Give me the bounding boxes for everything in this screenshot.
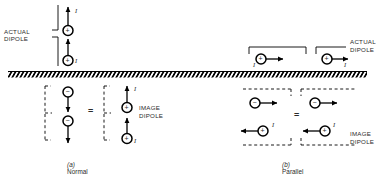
charge-sign: −	[252, 99, 256, 106]
image-dipole-box-b-right	[301, 89, 356, 145]
charge-sign: +	[66, 27, 70, 34]
charge-sign: −	[65, 88, 69, 95]
caption-b-prefix: (b)	[282, 161, 290, 168]
current-label: I	[134, 137, 136, 144]
current-label: I	[272, 121, 274, 128]
image-dipole-box-a-left	[45, 86, 52, 140]
actual-dipole-label-b-line1: ACTUAL	[350, 38, 376, 45]
image-dipole-label-a-line2: DIPOLE	[139, 112, 163, 119]
caption-a-text: Normal	[67, 168, 88, 175]
charge-sign: −	[312, 99, 316, 106]
current-label: I	[253, 61, 255, 68]
equals-sign: =	[294, 112, 300, 119]
image-dipole-label-a-line1: IMAGE	[139, 104, 160, 111]
current-label: I	[333, 121, 335, 128]
ground-plane	[8, 72, 367, 78]
actual-dipole-bracket-b	[249, 47, 346, 54]
image-dipole-label-b-line2: DIPOLE	[350, 138, 374, 145]
equals-sign: =	[88, 108, 94, 115]
charge-sign: +	[66, 57, 70, 64]
current-label: I	[344, 61, 346, 68]
charge-sign: −	[65, 117, 69, 124]
actual-dipole-bracket-a	[52, 5, 58, 66]
current-label: I	[75, 57, 77, 64]
actual-dipole-label-b-line2: DIPOLE	[350, 46, 374, 53]
caption-panel-a: (a) Normal	[60, 154, 88, 182]
caption-b-text: Parallel	[282, 168, 303, 175]
current-label: I	[134, 85, 136, 92]
charge-sign: +	[261, 127, 265, 134]
image-dipole-box-a-right	[104, 86, 111, 140]
caption-a-prefix: (a)	[67, 161, 75, 168]
charge-sign: +	[325, 55, 329, 62]
current-label: I	[75, 7, 77, 14]
actual-dipole-label-a-line2: DIPOLE	[4, 35, 28, 42]
charge-sign: +	[323, 127, 327, 134]
actual-dipole-label-a-line1: ACTUAL	[4, 28, 30, 35]
caption-panel-b: (b) Parallel	[275, 154, 303, 182]
charge-sign: +	[259, 55, 263, 62]
image-dipole-label-b-line1: IMAGE	[350, 130, 371, 137]
charge-sign: +	[125, 135, 129, 142]
charge-sign: +	[125, 104, 129, 111]
image-dipole-box-b-left	[243, 89, 291, 145]
